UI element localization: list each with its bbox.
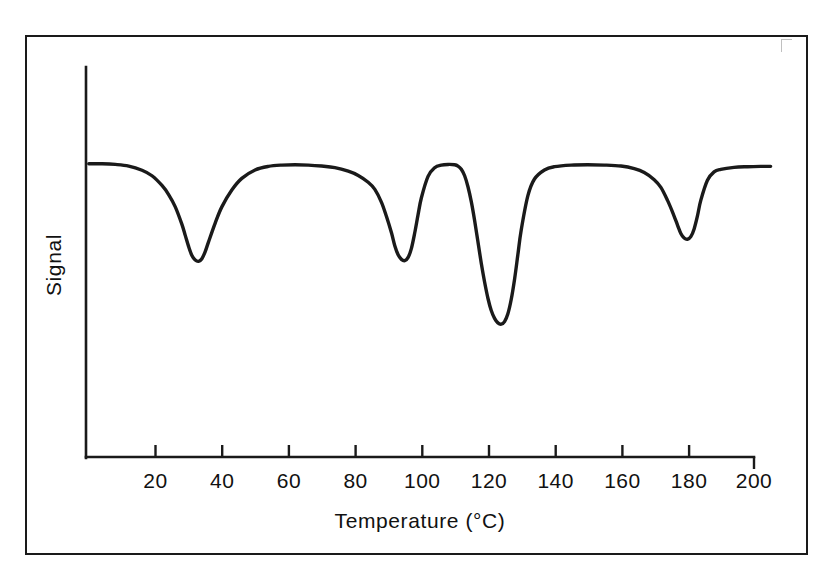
y-axis-title: Signal [42,234,65,296]
x-tick-label-20: 20 [143,469,167,492]
x-tick-label-120: 120 [471,469,508,492]
x-tick-label-40: 40 [210,469,234,492]
x-tick-label-80: 80 [343,469,367,492]
figure-border-frame: 20 40 60 80 100 120 140 160 180 200 Temp… [25,35,808,555]
x-tick-label-160: 160 [604,469,641,492]
x-tick-label-100: 100 [404,469,441,492]
chart-plot-area: 20 40 60 80 100 120 140 160 180 200 Temp… [27,37,806,553]
figure-root: 20 40 60 80 100 120 140 160 180 200 Temp… [0,0,834,578]
x-tick-label-140: 140 [537,469,574,492]
signal-trace-line [89,164,771,324]
x-axis-title: Temperature (°C) [335,509,506,532]
x-tick-label-200: 200 [736,469,773,492]
x-tick-label-60: 60 [277,469,301,492]
x-tick-label-180: 180 [671,469,708,492]
